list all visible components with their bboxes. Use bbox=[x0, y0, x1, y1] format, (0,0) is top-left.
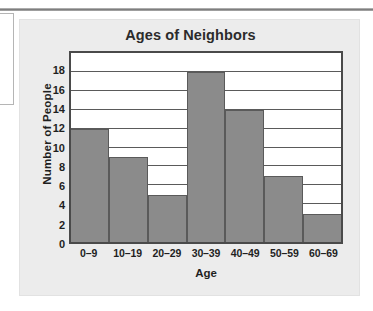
x-axis-tick-labels: 0–910–1920–2930–3940–4950–5960–69 bbox=[69, 247, 343, 259]
x-tick-label-60–69: 60–69 bbox=[304, 247, 343, 259]
x-tick-label-50–59: 50–59 bbox=[265, 247, 304, 259]
y-tick-label-8: 8 bbox=[41, 161, 65, 173]
x-tick-label-30–39: 30–39 bbox=[186, 247, 225, 259]
y-tick-label-6: 6 bbox=[41, 180, 65, 192]
x-tick-label-20–29: 20–29 bbox=[147, 247, 186, 259]
y-tick-label-2: 2 bbox=[41, 219, 65, 231]
y-tick-label-16: 16 bbox=[41, 84, 65, 96]
bar-50–59 bbox=[264, 176, 303, 242]
bars-layer bbox=[71, 53, 341, 242]
bar-30–39 bbox=[187, 72, 226, 242]
y-tick-label-10: 10 bbox=[41, 142, 65, 154]
top-divider-rule bbox=[0, 8, 373, 11]
bar-10–19 bbox=[109, 157, 148, 242]
bar-60–69 bbox=[303, 214, 341, 242]
bar-40–49 bbox=[225, 110, 264, 242]
x-tick-label-40–49: 40–49 bbox=[226, 247, 265, 259]
plot-area bbox=[69, 51, 343, 244]
x-tick-label-10–19: 10–19 bbox=[108, 247, 147, 259]
chart-figure-panel: Ages of Neighbors Number of People 02468… bbox=[19, 19, 360, 296]
y-tick-label-4: 4 bbox=[41, 199, 65, 211]
y-tick-label-14: 14 bbox=[41, 103, 65, 115]
x-tick-label-0–9: 0–9 bbox=[69, 247, 108, 259]
adjacent-panel-clipped bbox=[0, 13, 14, 105]
y-tick-label-12: 12 bbox=[41, 122, 65, 134]
chart-title: Ages of Neighbors bbox=[20, 27, 361, 43]
y-tick-label-0: 0 bbox=[41, 238, 65, 250]
bar-20–29 bbox=[148, 195, 187, 242]
x-axis-label: Age bbox=[69, 267, 343, 279]
bar-0–9 bbox=[71, 129, 109, 242]
y-tick-label-18: 18 bbox=[41, 64, 65, 76]
y-axis-tick-labels: 024681012141618 bbox=[39, 51, 65, 244]
